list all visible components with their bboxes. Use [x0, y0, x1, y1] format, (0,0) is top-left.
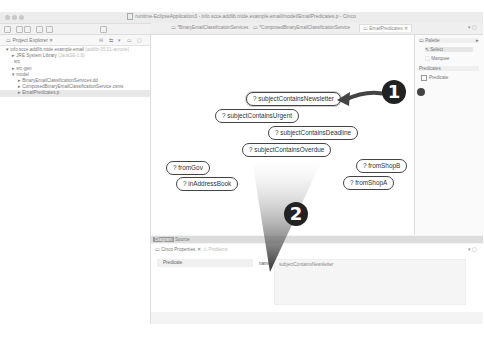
predicate-node[interactable]: ? subjectContainsUrgent [215, 109, 299, 123]
search-icon[interactable] [100, 26, 107, 33]
palette-tool-marquee[interactable]: ⬚ Marquee [425, 56, 449, 61]
save-all-icon[interactable] [24, 26, 31, 33]
tab-email-predicates[interactable]: ▭ EmailPredicates ✕ [359, 24, 412, 32]
pane-controls[interactable]: ⊟ ⇆ ▾ ▭ ▢ [99, 37, 144, 43]
problems-tab[interactable]: ⚠ Problems [203, 247, 228, 252]
predicate-node[interactable]: ? fromGov [166, 161, 210, 175]
editor-tab-bar: ▭ *BinaryEmailClassificationServices ▭ *… [151, 23, 483, 35]
palette-group-predicates[interactable]: Predicates [419, 66, 479, 71]
window-title: runtime-EclipseApplication3 - info.scce.… [0, 13, 483, 20]
callout-2-badge: 2 [284, 202, 308, 226]
debug-icon[interactable] [36, 26, 43, 33]
callout-1-badge: 1 [382, 80, 406, 104]
name-label: name [259, 261, 271, 266]
palette-item-predicate[interactable]: Predicate [421, 75, 448, 81]
predicate-node[interactable]: ? fromShopA [343, 176, 394, 190]
properties-pane: ▭ Cinco Properties ✕ ⚠ Problems ▾ ▢ Pred… [151, 244, 483, 312]
predicate-node[interactable]: ? inAddressBook [176, 177, 238, 191]
project-tree: ▾ info.scce.addlib.mide.example.email [a… [0, 46, 150, 97]
properties-header: ▭ Cinco Properties ✕ ⚠ Problems [155, 247, 228, 252]
predicate-node[interactable]: ? subjectContainsDeadline [268, 126, 358, 140]
run-icon[interactable] [46, 26, 53, 33]
tab-binary-services[interactable]: ▭ *BinaryEmailClassificationServices [171, 25, 248, 30]
tab-source[interactable]: Source [175, 237, 190, 242]
predicate-node[interactable]: ? subjectContainsOverdue [242, 143, 331, 157]
palette-tool-select[interactable]: ↖ Select [425, 47, 473, 52]
project-explorer-header: ▭ Project Explorer ✕ ⊟ ⇆ ▾ ▭ ▢ [0, 35, 150, 46]
save-icon[interactable] [16, 26, 23, 33]
palette-pane: ▭ Palette ▸ ↖ Select ⬚ Marquee Predicate… [414, 35, 484, 235]
project-explorer-pane: ▭ Project Explorer ✕ ⊟ ⇆ ▾ ▭ ▢ ▾ info.sc… [0, 35, 151, 324]
tab-diagram[interactable]: Diagram [153, 237, 174, 242]
predicate-node[interactable]: ? fromShopB [356, 159, 407, 173]
properties-tab[interactable]: ▭ Cinco Properties ✕ [155, 247, 201, 252]
properties-section: Predicate [157, 259, 253, 267]
document-icon [127, 13, 133, 20]
new-icon[interactable] [4, 26, 11, 33]
tree-item-selected[interactable]: ▸ EmailPredicates.p [0, 90, 150, 96]
editor-pane-controls[interactable]: ▾ ▢ [468, 25, 477, 30]
palette-header: ▭ Palette ▸ [419, 38, 479, 43]
predicate-icon [421, 75, 427, 81]
tab-composed-service[interactable]: ▭ *ComposedBinaryEmailClassificationServ… [253, 25, 350, 30]
diagram-canvas[interactable]: ? subjectContainsNewsletter ? subjectCon… [151, 35, 414, 235]
name-field[interactable]: subjectContainsNewsletter [274, 259, 466, 305]
predicate-node[interactable]: ? subjectContainsNewsletter [246, 92, 341, 106]
properties-pane-controls[interactable]: ▾ ▢ [468, 247, 477, 252]
project-explorer-tab[interactable]: ▭ Project Explorer ✕ [6, 37, 53, 43]
editor-view-tabs: Diagram Source [151, 236, 483, 243]
